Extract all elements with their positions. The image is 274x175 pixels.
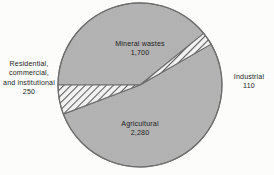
slice-label-industrial-value: 110 — [225, 82, 273, 91]
slice-label-mineral-wastes: Mineral wastes 1,700 — [96, 31, 184, 68]
slice-label-industrial-name: Industrial — [234, 73, 264, 81]
slice-label-agricultural-value: 2,280 — [96, 129, 184, 138]
pie-chart-figure: Mineral wastes 1,700 Agricultural 2,280 … — [0, 0, 274, 175]
slice-label-residential-value: 250 — [1, 88, 57, 97]
slice-label-agricultural: Agricultural 2,280 — [96, 111, 184, 148]
slice-label-agricultural-name: Agricultural — [121, 120, 158, 128]
slice-label-residential-commercial-institutional: Residential, commercial, and institution… — [1, 51, 57, 106]
slice-label-mineral-wastes-value: 1,700 — [96, 49, 184, 58]
slice-label-industrial: Industrial 110 — [225, 64, 273, 101]
slice-label-residential-name: Residential, commercial, and institution… — [3, 60, 55, 86]
slice-label-mineral-wastes-name: Mineral wastes — [115, 40, 164, 48]
